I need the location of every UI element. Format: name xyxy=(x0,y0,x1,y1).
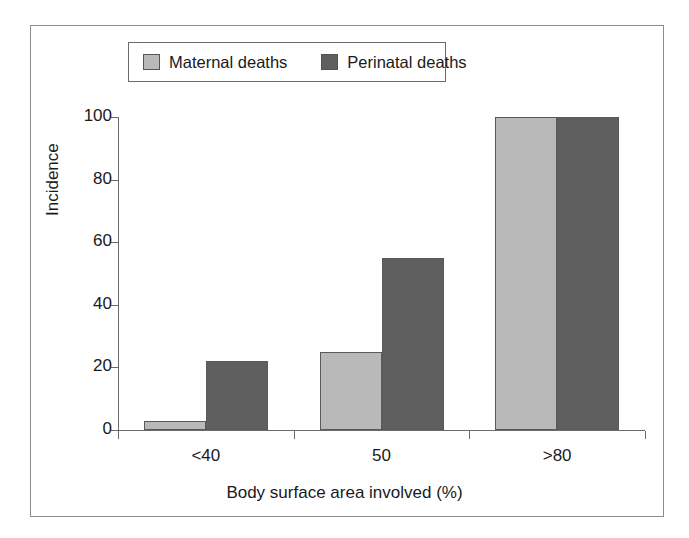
plot-area: 020406080100 <4050>80 xyxy=(118,117,645,430)
x-axis-tick-label: 50 xyxy=(372,447,391,464)
chart-legend: Maternal deaths Perinatal deaths xyxy=(128,42,446,82)
bar-perinatal-2 xyxy=(557,117,619,430)
bar-perinatal-1 xyxy=(382,258,444,430)
y-axis-tick xyxy=(111,242,118,243)
x-axis-tick-label: <40 xyxy=(191,447,220,464)
y-axis-tick-label: 20 xyxy=(93,357,112,374)
y-axis-tick xyxy=(111,305,118,306)
y-axis-line xyxy=(118,117,119,430)
x-axis-title: Body surface area involved (%) xyxy=(0,484,689,501)
legend-swatch-perinatal-deaths xyxy=(321,54,338,70)
y-axis-tick-label: 80 xyxy=(93,170,112,187)
y-axis-title: Incidence xyxy=(44,143,61,216)
y-axis-tick-label: 60 xyxy=(93,232,112,249)
y-axis-tick xyxy=(111,117,118,118)
x-axis-tick xyxy=(118,431,119,439)
x-axis-tick xyxy=(645,431,646,439)
y-axis-tick-label: 100 xyxy=(84,107,112,124)
legend-entry-perinatal-deaths: Perinatal deaths xyxy=(321,54,466,71)
legend-label-maternal-deaths: Maternal deaths xyxy=(169,54,287,71)
legend-label-perinatal-deaths: Perinatal deaths xyxy=(347,54,466,71)
y-axis-tick xyxy=(111,180,118,181)
bar-maternal-1 xyxy=(320,352,382,430)
figure-container: Maternal deaths Perinatal deaths 0204060… xyxy=(0,0,689,538)
x-axis-line xyxy=(118,430,645,431)
y-axis-tick xyxy=(111,430,118,431)
legend-entry-maternal-deaths: Maternal deaths xyxy=(143,54,287,71)
legend-swatch-maternal-deaths xyxy=(143,54,160,70)
bar-maternal-0 xyxy=(144,421,206,430)
y-axis-tick xyxy=(111,367,118,368)
x-axis-tick xyxy=(469,431,470,439)
x-axis-tick xyxy=(294,431,295,439)
y-axis-tick-label: 0 xyxy=(103,420,112,437)
y-axis-tick-label: 40 xyxy=(93,295,112,312)
x-axis-tick-label: >80 xyxy=(543,447,572,464)
bar-maternal-2 xyxy=(495,117,557,430)
bar-perinatal-0 xyxy=(206,361,268,430)
